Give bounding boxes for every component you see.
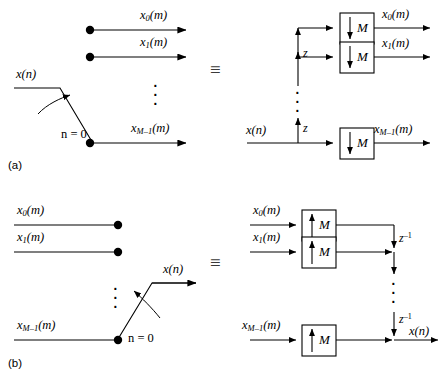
downsampler-block-0-factor: M (357, 21, 368, 34)
panel-a-left-switch-label: n = 0 (61, 128, 87, 141)
panel-b-right-ellipsis-icon: ··· (390, 278, 397, 305)
panel-b-left-input-label-m1: xM–1(m) (17, 319, 56, 333)
panel-a-left-nodes (86, 26, 94, 147)
upsampler-block-1-factor: M (319, 245, 330, 258)
panel-a-right-output-label-m1: xM–1(m) (374, 123, 413, 137)
panel-a-right-delay-label-1: z (303, 122, 308, 134)
panel-b-equivalence-icon: ≡ (210, 253, 221, 272)
downsampler-block-1-factor: M (357, 50, 368, 63)
upsampler-block-2-factor: M (319, 333, 330, 346)
panel-b-left-input-label-1: x1(m) (17, 231, 44, 245)
panel-a-left-input-label: x(n) (16, 68, 36, 81)
downsampler-block-2-factor: M (357, 136, 368, 149)
panel-b-left-output-label: x(n) (163, 263, 183, 276)
figure-vector-layer (0, 0, 448, 381)
panel-b-right-input-label-m1: xM–1(m) (242, 319, 281, 333)
panel-a-left-output-label-1: x1(m) (140, 36, 167, 50)
panel-b-left-ellipsis-icon: ··· (112, 283, 119, 310)
panel-a-left-output-label-m1: xM–1(m) (131, 122, 170, 136)
panel-b-left-switch-label: n = 0 (128, 332, 154, 345)
panel-b-caption: (b) (8, 358, 22, 370)
figure-polyphase-commutator-equivalence: x(n) n = 0 x0(m) x1(m) xM–1(m) ··· ≡ x(n… (0, 0, 448, 381)
panel-a-right-ellipsis-icon: ··· (294, 87, 301, 114)
panel-b-right-input-label-0: x0(m) (253, 204, 280, 218)
panel-b-right-input-label-1: x1(m) (253, 231, 280, 245)
panel-a-left-output-label-0: x0(m) (140, 9, 167, 23)
panel-a-caption: (a) (8, 160, 22, 172)
panel-a-left-ellipsis-icon: ··· (152, 80, 159, 107)
panel-b-right-output-label: x(n) (409, 325, 429, 338)
panel-a-right-output-label-1: x1(m) (382, 37, 409, 51)
panel-a-right-network (247, 13, 430, 159)
panel-a-equivalence-icon: ≡ (210, 60, 221, 79)
panel-a-right-input-label: x(n) (246, 124, 266, 137)
upsampler-block-0-factor: M (319, 218, 330, 231)
panel-a-right-output-label-0: x0(m) (382, 8, 409, 22)
panel-b-right-delay-label-0: z–1 (399, 232, 412, 244)
panel-b-left-input-label-0: x0(m) (17, 204, 44, 218)
panel-a-right-delay-label-0: z (303, 47, 308, 59)
